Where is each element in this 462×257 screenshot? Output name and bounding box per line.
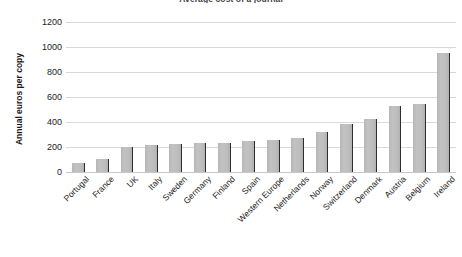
bar-slot: [121, 22, 134, 172]
bar[interactable]: [169, 144, 182, 172]
y-tick-label: 200: [47, 142, 62, 152]
y-axis-title: Annual euros per copy: [14, 34, 24, 164]
y-tick-label: 0: [57, 167, 62, 177]
x-axis-label: UK: [125, 174, 140, 189]
y-tick-label: 1200: [42, 17, 62, 27]
y-tick-label: 600: [47, 92, 62, 102]
bar[interactable]: [413, 104, 426, 172]
bar[interactable]: [389, 106, 402, 172]
bar[interactable]: [291, 138, 304, 172]
bar[interactable]: [145, 145, 158, 172]
bar[interactable]: [218, 143, 231, 172]
bar-slot: [437, 22, 450, 172]
bar-slot: [364, 22, 377, 172]
bar[interactable]: [364, 119, 377, 172]
gridline: 0: [66, 172, 456, 173]
x-axis-label: Portugal: [62, 174, 91, 203]
bar[interactable]: [96, 159, 109, 172]
x-axis-label: Belgium: [404, 174, 433, 203]
bar-slot: [291, 22, 304, 172]
bar-slot: [267, 22, 280, 172]
chart-title: Average cost of a journal: [0, 0, 462, 3]
bar[interactable]: [267, 140, 280, 173]
bar-chart: Average cost of a journal Annual euros p…: [0, 0, 462, 257]
bar-slot: [218, 22, 231, 172]
bar-slot: [413, 22, 426, 172]
bar[interactable]: [316, 132, 329, 172]
x-axis-label: Italy: [146, 174, 164, 192]
bar-slot: [316, 22, 329, 172]
bar[interactable]: [340, 124, 353, 172]
x-axis-labels: PortugalFranceUKItalySwedenGermanyFinlan…: [66, 174, 456, 244]
bar[interactable]: [437, 53, 450, 172]
y-tick-label: 800: [47, 67, 62, 77]
bars-layer: [66, 22, 456, 172]
x-axis-label: France: [90, 174, 116, 200]
bar[interactable]: [121, 147, 134, 172]
y-tick-label: 1000: [42, 42, 62, 52]
bar-slot: [340, 22, 353, 172]
bar[interactable]: [194, 143, 207, 172]
bar-slot: [169, 22, 182, 172]
bar-slot: [389, 22, 402, 172]
bar-slot: [145, 22, 158, 172]
x-axis-label: Ireland: [431, 174, 456, 199]
bar[interactable]: [242, 141, 255, 172]
bar[interactable]: [72, 163, 85, 172]
bar-slot: [242, 22, 255, 172]
plot-area: 120010008006004002000: [66, 22, 456, 172]
x-axis-label: Finland: [211, 174, 238, 201]
bar-slot: [194, 22, 207, 172]
bar-slot: [96, 22, 109, 172]
bar-slot: [72, 22, 85, 172]
y-tick-label: 400: [47, 117, 62, 127]
